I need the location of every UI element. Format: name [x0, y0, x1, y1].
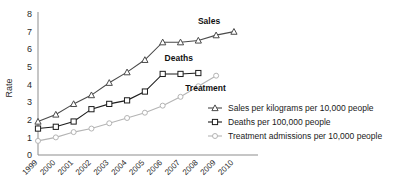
data-point-marker-square	[124, 98, 129, 103]
legend-label: Treatment admissions per 10,000 people	[228, 131, 382, 141]
inline-label-deaths: Deaths	[165, 53, 194, 63]
x-axis: 1999200020012002200320042005200620072008…	[20, 155, 258, 177]
data-point-marker-triangle	[231, 29, 237, 35]
y-tick-label-1: 1	[27, 133, 32, 143]
x-tick-label-2001: 2001	[56, 158, 75, 177]
data-point-marker-square	[107, 101, 112, 106]
y-tick-label-6: 6	[27, 44, 32, 54]
x-tick-label-2008: 2008	[181, 158, 200, 177]
data-point-marker-square	[178, 71, 183, 76]
inline-label-sales: Sales	[198, 16, 220, 26]
series-deaths	[35, 70, 201, 131]
data-point-marker-circle	[178, 94, 183, 99]
data-point-marker-circle	[142, 110, 147, 115]
y-tick-label-2: 2	[27, 115, 32, 125]
data-point-marker-circle	[71, 130, 76, 135]
data-point-marker-circle	[214, 73, 219, 78]
x-tick-label-2006: 2006	[145, 158, 164, 177]
legend-item-treatment[interactable]: Treatment admissions per 10,000 people	[208, 131, 382, 141]
data-point-marker-triangle	[88, 92, 94, 98]
data-point-marker-square	[212, 119, 217, 124]
x-tick-label-2003: 2003	[92, 158, 111, 177]
x-tick-label-2007: 2007	[163, 158, 182, 177]
data-point-marker-circle	[213, 134, 218, 139]
series-sales	[35, 29, 237, 125]
data-point-marker-circle	[36, 138, 41, 143]
line-chart: 012345678 199920002001200220032004200520…	[0, 0, 418, 187]
legend-label: Sales per kilograms per 10,000 people	[228, 103, 374, 113]
x-tick-label-2009: 2009	[199, 158, 218, 177]
x-tick-label-2002: 2002	[74, 158, 93, 177]
data-point-marker-triangle	[35, 118, 41, 124]
y-tick-label-3: 3	[27, 97, 32, 107]
x-tick-label-2004: 2004	[110, 158, 129, 177]
data-point-marker-triangle	[53, 111, 59, 117]
y-axis: 012345678	[27, 9, 38, 160]
data-point-marker-triangle	[106, 80, 112, 86]
y-tick-label-7: 7	[27, 27, 32, 37]
chart-container: 012345678 199920002001200220032004200520…	[0, 0, 418, 187]
x-tick-label-1999: 1999	[20, 158, 39, 177]
data-point-marker-square	[53, 124, 58, 129]
y-tick-label-8: 8	[27, 9, 32, 19]
inline-label-treatment: Treatment	[185, 83, 226, 93]
data-point-marker-circle	[125, 115, 130, 120]
series-line-sales	[38, 32, 234, 122]
data-point-marker-square	[142, 89, 147, 94]
data-point-marker-square	[196, 70, 201, 75]
data-point-marker-circle	[107, 121, 112, 126]
data-point-marker-circle	[160, 103, 165, 108]
data-point-marker-square	[71, 119, 76, 124]
chart-legend: Sales per kilograms per 10,000 peopleDea…	[208, 103, 382, 141]
y-axis-title: Rate	[4, 78, 14, 97]
data-point-marker-square	[35, 126, 40, 131]
legend-item-sales[interactable]: Sales per kilograms per 10,000 people	[208, 103, 374, 113]
x-tick-label-2000: 2000	[38, 158, 57, 177]
x-tick-label-2005: 2005	[127, 158, 146, 177]
inline-series-labels: SalesDeathsTreatment	[165, 16, 226, 93]
data-point-marker-square	[89, 107, 94, 112]
legend-label: Deaths per 100,000 people	[228, 117, 331, 127]
data-point-marker-square	[160, 71, 165, 76]
data-point-marker-triangle	[71, 101, 77, 107]
x-tick-label-2010: 2010	[216, 158, 235, 177]
y-tick-label-4: 4	[27, 80, 32, 90]
data-point-marker-circle	[53, 135, 58, 140]
legend-item-deaths[interactable]: Deaths per 100,000 people	[208, 117, 331, 127]
data-point-marker-circle	[89, 126, 94, 131]
data-point-marker-triangle	[124, 69, 130, 75]
y-tick-label-5: 5	[27, 62, 32, 72]
